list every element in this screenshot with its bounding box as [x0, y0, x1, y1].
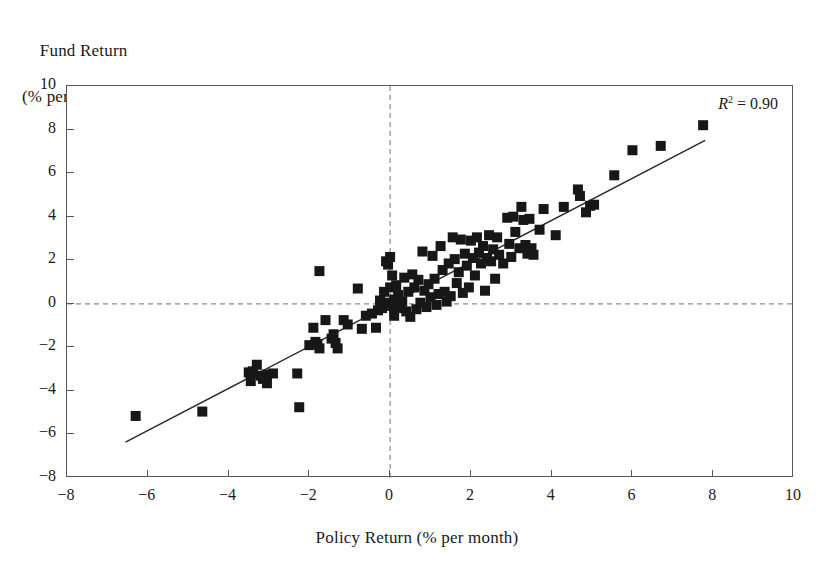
r-squared-value: = 0.90	[737, 95, 778, 112]
x-axis-tick-label: 2	[450, 486, 490, 504]
x-axis-tick-label: 4	[531, 486, 571, 504]
data-point	[480, 286, 490, 296]
x-axis-tick-mark	[389, 470, 390, 477]
data-point	[551, 230, 561, 240]
x-axis-tick-mark	[147, 470, 148, 477]
data-point	[417, 247, 427, 257]
plot-area: R2 = 0.90	[66, 85, 793, 477]
x-axis-tick-mark	[308, 470, 309, 477]
x-axis-tick-mark	[470, 470, 471, 477]
data-point	[387, 270, 397, 280]
data-point	[539, 204, 549, 214]
data-point	[268, 368, 278, 378]
data-point	[333, 343, 343, 353]
y-axis-tick-mark	[67, 259, 74, 260]
data-point	[510, 227, 520, 237]
data-point	[490, 274, 500, 284]
data-point	[524, 214, 534, 224]
x-axis-tick-mark	[631, 470, 632, 477]
data-point	[575, 191, 585, 201]
data-point	[627, 145, 637, 155]
y-axis-tick-mark	[67, 216, 74, 217]
data-point	[559, 202, 569, 212]
data-point	[371, 323, 381, 333]
data-point	[294, 402, 304, 412]
y-axis-tick-label: 8	[22, 119, 56, 137]
y-axis-tick-label: 4	[22, 206, 56, 224]
y-axis-title-line1: Fund Return	[40, 41, 128, 60]
y-axis-tick-mark	[67, 129, 74, 130]
r-squared-symbol: R	[718, 95, 728, 112]
data-point	[432, 300, 442, 310]
x-axis-tick-label: −2	[288, 486, 328, 504]
y-axis-tick-label: 2	[22, 249, 56, 267]
data-point	[456, 235, 466, 245]
data-point	[506, 252, 516, 262]
scatter-plot-canvas	[67, 86, 794, 478]
r-squared-annotation: R2 = 0.90	[718, 94, 778, 113]
data-point	[314, 343, 324, 353]
y-axis-tick-mark	[67, 346, 74, 347]
x-axis-tick-label: −4	[208, 486, 248, 504]
data-point	[246, 376, 256, 386]
x-axis-tick-mark	[228, 470, 229, 477]
data-point	[508, 212, 518, 222]
data-point	[535, 225, 545, 235]
data-point	[428, 251, 438, 261]
data-point	[385, 252, 395, 262]
data-point	[528, 250, 538, 260]
y-axis-tick-mark	[67, 303, 74, 304]
y-axis-tick-mark	[67, 390, 74, 391]
x-axis-tick-mark	[712, 470, 713, 477]
figure-container: Fund Return (% per month) R2 = 0.90 −8−6…	[0, 0, 834, 574]
data-point	[589, 200, 599, 210]
data-point	[609, 170, 619, 180]
data-point	[397, 297, 407, 307]
data-point	[436, 241, 446, 251]
y-axis-tick-label: −6	[22, 423, 56, 441]
data-point	[656, 141, 666, 151]
data-point	[252, 360, 262, 370]
data-point	[478, 241, 488, 251]
x-axis-title: Policy Return (% per month)	[0, 528, 834, 548]
data-point	[464, 282, 474, 292]
y-axis-tick-label: −2	[22, 336, 56, 354]
data-point	[504, 239, 514, 249]
x-axis-tick-mark	[551, 470, 552, 477]
y-axis-tick-label: 10	[22, 75, 56, 93]
data-point	[343, 319, 353, 329]
data-point	[494, 250, 504, 260]
data-point	[430, 274, 440, 284]
data-point	[446, 291, 456, 301]
data-point	[329, 329, 339, 339]
data-point	[450, 254, 460, 264]
x-axis-tick-label: 8	[692, 486, 732, 504]
data-point	[472, 232, 482, 242]
data-point	[292, 368, 302, 378]
y-axis-tick-label: −4	[22, 380, 56, 398]
data-point	[452, 278, 462, 288]
data-point	[262, 378, 272, 388]
data-point	[314, 266, 324, 276]
data-point	[320, 315, 330, 325]
y-axis-tick-mark	[67, 433, 74, 434]
data-point	[131, 411, 141, 421]
y-axis-tick-label: −8	[22, 467, 56, 485]
y-axis-tick-label: 0	[22, 293, 56, 311]
data-point	[421, 302, 431, 312]
data-point	[357, 324, 367, 334]
x-axis-tick-label: −6	[127, 486, 167, 504]
data-point	[413, 275, 423, 285]
data-point-group	[131, 120, 708, 421]
y-axis-tick-label: 6	[22, 162, 56, 180]
data-point	[698, 120, 708, 130]
data-point	[516, 202, 526, 212]
data-point	[492, 232, 502, 242]
x-axis-tick-label: 6	[611, 486, 651, 504]
data-point	[308, 323, 318, 333]
x-axis-tick-label: 0	[369, 486, 409, 504]
r-squared-exponent: 2	[728, 94, 733, 105]
x-axis-tick-label: 10	[773, 486, 813, 504]
data-point	[353, 284, 363, 294]
x-axis-tick-label: −8	[46, 486, 86, 504]
